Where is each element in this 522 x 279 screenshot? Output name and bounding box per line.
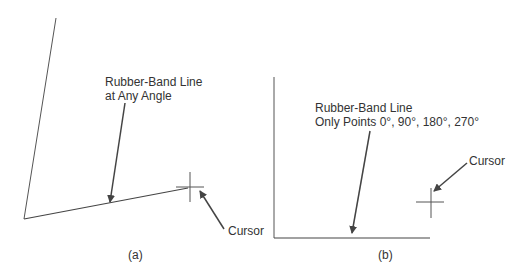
panel-b-label-line1: Rubber-Band Line xyxy=(315,101,479,115)
panel-a-label-line1: Rubber-Band Line xyxy=(105,75,202,89)
panel-b-label-arrow xyxy=(352,131,370,233)
panel-b-cursor-crosshair-icon xyxy=(416,188,444,218)
panel-a-label-line2: at Any Angle xyxy=(105,89,202,103)
panel-b-label-line2: Only Points 0°, 90°, 180°, 270° xyxy=(315,115,479,129)
panel-b-caption: (b) xyxy=(378,248,393,262)
panel-a-label-arrow xyxy=(110,103,125,202)
panel-a-cursor-label: Cursor xyxy=(228,224,264,238)
panel-a-cursor-crosshair-icon xyxy=(176,172,204,202)
panel-b-cursor-label: Cursor xyxy=(469,154,505,168)
panel-a-caption: (a) xyxy=(128,248,143,262)
panel-a-lines xyxy=(24,18,188,219)
panel-b-label: Rubber-Band Line Only Points 0°, 90°, 18… xyxy=(315,101,479,129)
panel-b-cursor-arrow xyxy=(434,163,467,191)
panel-a-cursor-arrow xyxy=(200,191,224,229)
panel-a-label: Rubber-Band Line at Any Angle xyxy=(105,75,202,103)
